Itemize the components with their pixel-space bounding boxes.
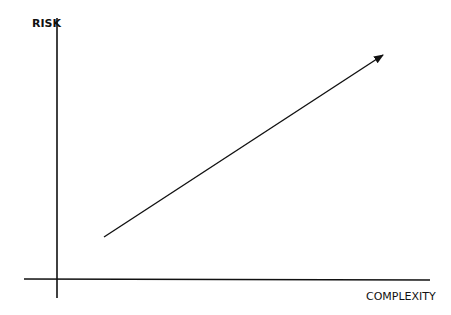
y-axis-label: RISK (32, 17, 61, 30)
x-axis-label: COMPLEXITY (366, 290, 436, 303)
risk-complexity-diagram (0, 0, 451, 315)
x-axis (24, 279, 430, 280)
trend-arrow (104, 55, 383, 237)
